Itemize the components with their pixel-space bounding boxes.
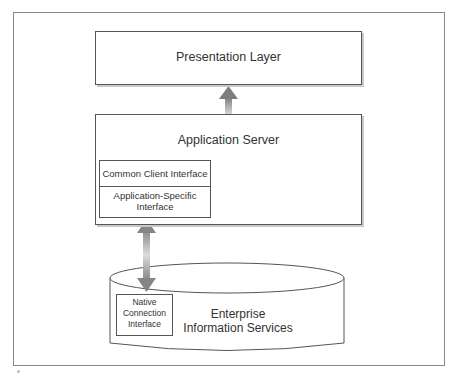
client-interface-stack: Common Client Interface Application-Spec…	[99, 160, 211, 218]
arrow-bidirectional-icon	[137, 219, 156, 292]
application-specific-interface: Application-Specific Interface	[100, 187, 210, 217]
presentation-layer-label: Presentation Layer	[96, 50, 361, 64]
eis-label: Enterprise Information Services	[178, 307, 298, 335]
corner-mark	[17, 370, 20, 373]
eis-label-line2: Information Services	[178, 321, 298, 335]
native-line3: Interface	[117, 319, 172, 330]
application-specific-interface-line1: Application-Specific	[100, 190, 210, 201]
presentation-layer-box: Presentation Layer	[95, 31, 362, 85]
native-connection-interface-box: Native Connection Interface	[116, 294, 173, 336]
application-specific-interface-line2: Interface	[100, 201, 210, 212]
native-line2: Connection	[117, 308, 172, 319]
arrow-up-icon	[219, 86, 238, 114]
eis-label-line1: Enterprise	[178, 307, 298, 321]
application-server-label: Application Server	[96, 133, 361, 147]
common-client-interface-label: Common Client Interface	[100, 161, 210, 187]
native-line1: Native	[117, 297, 172, 308]
